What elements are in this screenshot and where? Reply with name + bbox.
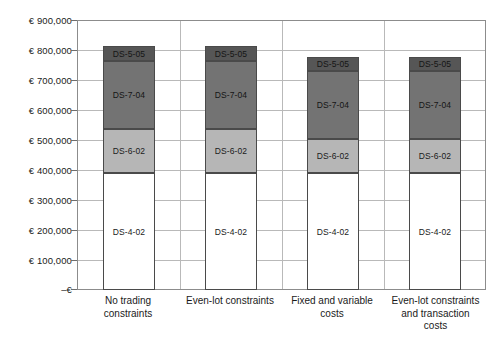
y-tick-label: € 800,000 [0,45,72,56]
bar-segment-ds-4-02[interactable]: DS-4-02 [409,173,461,290]
y-tick-label: € 400,000 [0,165,72,176]
bar-segment-label: DS-6-02 [113,146,145,156]
bar-column[interactable]: DS-5-05 DS-7-04 DS-6-02 DS-4-02 [205,21,257,290]
y-tick-label: € 300,000 [0,195,72,206]
bar-column[interactable]: DS-5-05 DS-7-04 DS-6-02 DS-4-02 [103,21,155,290]
bar-segment-label: DS-7-04 [113,90,145,100]
bar-segment-ds-4-02[interactable]: DS-4-02 [103,173,155,290]
bar-segment-ds-4-02[interactable]: DS-4-02 [307,173,359,290]
bar-segment-label: DS-6-02 [317,151,349,161]
bar-segment-ds-4-02[interactable]: DS-4-02 [205,173,257,290]
bar-segment-label: DS-7-04 [419,100,451,110]
x-axis-label: Even-lot constraints and transaction cos… [383,295,488,333]
bar-segment-label: DS-4-02 [215,227,247,237]
bar-segment-ds-5-05[interactable]: DS-5-05 [307,57,359,71]
bar-segment-label: DS-7-04 [317,100,349,110]
bar-segment-label: DS-5-05 [215,49,247,59]
category-separator [384,21,385,289]
y-tick-label: € 700,000 [0,75,72,86]
bar-column[interactable]: DS-5-05 DS-7-04 DS-6-02 DS-4-02 [409,21,461,290]
bar-segment-label: DS-6-02 [419,151,451,161]
y-tick-label: € 600,000 [0,105,72,116]
category-separator [180,21,181,289]
bar-segment-label: DS-4-02 [419,227,451,237]
bar-segment-label: DS-5-05 [113,49,145,59]
bar-segment-ds-5-05[interactable]: DS-5-05 [205,46,257,61]
y-tick-label: € 100,000 [0,255,72,266]
plot-area: DS-5-05 DS-7-04 DS-6-02 DS-4-02 DS-5-05 … [77,20,486,290]
bar-segment-ds-7-04[interactable]: DS-7-04 [307,71,359,139]
bar-segment-ds-6-02[interactable]: DS-6-02 [307,139,359,173]
x-axis-label: No trading constraints [77,295,179,320]
bar-segment-ds-7-04[interactable]: DS-7-04 [103,61,155,129]
y-tick-label: € 200,000 [0,225,72,236]
x-axis-label: Even-lot constraints [179,295,281,308]
bar-segment-label: DS-6-02 [215,146,247,156]
y-tick-label: –€ [0,284,72,295]
bar-segment-label: DS-4-02 [113,227,145,237]
bar-segment-ds-6-02[interactable]: DS-6-02 [409,139,461,173]
bar-column[interactable]: DS-5-05 DS-7-04 DS-6-02 DS-4-02 [307,21,359,290]
bar-segment-ds-7-04[interactable]: DS-7-04 [409,71,461,139]
bar-segment-ds-5-05[interactable]: DS-5-05 [103,46,155,61]
stacked-bar-chart: € 900,000 € 800,000 € 700,000 € 600,000 … [0,0,504,348]
bar-segment-ds-5-05[interactable]: DS-5-05 [409,57,461,71]
bar-segment-label: DS-5-05 [317,59,349,69]
bar-segment-ds-6-02[interactable]: DS-6-02 [103,129,155,173]
bar-segment-ds-6-02[interactable]: DS-6-02 [205,129,257,173]
y-tick-label: € 500,000 [0,135,72,146]
bar-segment-label: DS-7-04 [215,90,247,100]
category-separator [282,21,283,289]
bar-segment-label: DS-5-05 [419,59,451,69]
bar-segment-ds-7-04[interactable]: DS-7-04 [205,61,257,129]
x-axis-label: Fixed and variable costs [281,295,383,320]
bar-segment-label: DS-4-02 [317,227,349,237]
y-tick-label: € 900,000 [0,15,72,26]
